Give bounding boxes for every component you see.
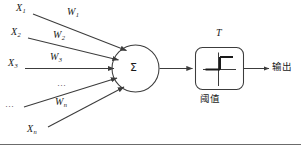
input-arrow-2 [28, 38, 119, 60]
weight-ellipsis: … [57, 79, 67, 88]
figure-neuron-model: X1 X2 X3 … Xn W1 W2 W3 … Wn Σ T 阈值 输出 [0, 0, 301, 146]
threshold-bottom-label: 阈值 [200, 94, 221, 104]
input-xn: Xn [27, 124, 36, 134]
weight-wn: Wn [55, 97, 67, 107]
input-x3: X3 [8, 58, 17, 68]
input-x1: X1 [16, 3, 25, 13]
diagram-canvas [0, 0, 301, 146]
weight-w2: W2 [53, 30, 65, 40]
step-function-curve [206, 57, 234, 70]
input-arrow-4 [24, 78, 117, 107]
summation-sigma-label: Σ [130, 62, 137, 73]
weight-w1: W1 [67, 7, 79, 17]
weight-w3: W3 [50, 52, 62, 62]
output-label: 输出 [272, 62, 293, 72]
threshold-top-label: T [216, 28, 222, 38]
input-x2: X2 [11, 27, 20, 37]
input-arrow-1 [33, 14, 127, 51]
input-arrow-5 [48, 87, 124, 127]
input-ellipsis: … [5, 100, 15, 109]
